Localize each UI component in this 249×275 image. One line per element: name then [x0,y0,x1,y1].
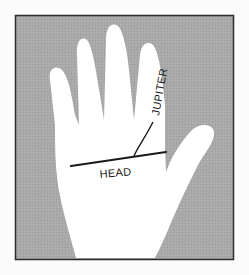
palmistry-diagram: JUPITER HEAD [0,0,249,275]
